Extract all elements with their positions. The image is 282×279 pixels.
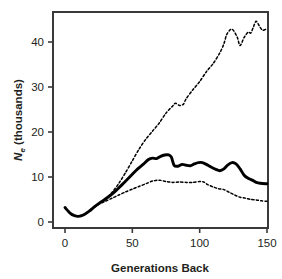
x-tick-label: 150: [257, 237, 276, 249]
y-tick-label: 40: [31, 36, 44, 48]
y-axis-title: Ne (thousands): [12, 79, 27, 161]
y-tick-label: 0: [38, 216, 44, 228]
y-axis-title-rest: (thousands): [12, 79, 24, 148]
x-tick-label: 100: [190, 237, 209, 249]
svg-text:Ne (thousands): Ne (thousands): [12, 79, 27, 161]
x-tick-label: 50: [126, 237, 139, 249]
y-tick-label: 20: [31, 126, 44, 138]
x-axis-title: Generations Back: [111, 262, 209, 274]
x-tick-label: 0: [62, 237, 68, 249]
line-chart: 010203040 050100150 Generations Back Ne …: [0, 0, 282, 279]
chart-figure: 010203040 050100150 Generations Back Ne …: [0, 0, 282, 279]
y-axis-tick-labels: 010203040: [31, 36, 44, 228]
y-tick-label: 30: [31, 81, 44, 93]
x-axis-tick-labels: 050100150: [62, 237, 277, 249]
y-tick-label: 10: [31, 171, 44, 183]
